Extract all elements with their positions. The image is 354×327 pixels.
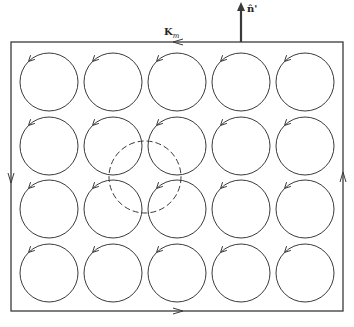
- current-loop: [20, 53, 78, 111]
- normal-vector-label: n̂': [247, 3, 257, 14]
- normal-vector-arrow: [237, 2, 245, 42]
- arrow-up-icon: [237, 2, 245, 11]
- current-loop: [276, 180, 334, 238]
- current-loop: [212, 244, 270, 302]
- current-loop: [148, 180, 206, 238]
- boundary-rect: [11, 42, 343, 311]
- magnetization-current-diagram: [0, 0, 354, 327]
- surface-current-label: Km: [164, 26, 179, 40]
- current-loop: [148, 244, 206, 302]
- dashed-circle: [109, 141, 181, 213]
- current-loop: [84, 117, 142, 175]
- current-loop: [276, 117, 334, 175]
- current-loop: [20, 244, 78, 302]
- edge-current-arrows: [8, 39, 346, 314]
- current-loop: [20, 117, 78, 175]
- current-loop: [84, 53, 142, 111]
- amperian-loop: [109, 141, 181, 213]
- current-loop: [84, 244, 142, 302]
- current-loop: [276, 244, 334, 302]
- current-loop: [212, 53, 270, 111]
- current-loop: [212, 180, 270, 238]
- boundary-rectangle: [11, 42, 343, 311]
- current-loop: [148, 53, 206, 111]
- current-loop: [276, 53, 334, 111]
- current-loop: [212, 117, 270, 175]
- current-loops-grid: [20, 53, 334, 302]
- current-loop: [84, 180, 142, 238]
- current-loop: [20, 180, 78, 238]
- current-loop: [148, 117, 206, 175]
